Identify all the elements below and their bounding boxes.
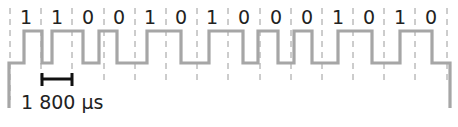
bit-label: 1 [332,6,344,28]
bit-label: 0 [82,6,94,28]
bit-label: 0 [113,6,125,28]
scale-bar: 1 800 µs [21,73,103,113]
bit-label: 1 [144,6,156,28]
bit-label: 0 [363,6,375,28]
bit-label: 0 [301,6,313,28]
bit-label: 1 [51,6,63,28]
bit-label: 0 [425,6,437,28]
bit-label: 1 [20,6,32,28]
bit-label: 1 [394,6,406,28]
scale-bar-label: 1 800 µs [21,91,103,113]
waveform-diagram: 1 1 0 0 1 0 1 0 0 0 1 0 1 0 1 800 µs [0,0,458,127]
gridlines [10,8,447,100]
bit-label: 1 [206,6,218,28]
bit-label: 0 [175,6,187,28]
bit-label: 0 [238,6,250,28]
bit-label: 0 [270,6,282,28]
